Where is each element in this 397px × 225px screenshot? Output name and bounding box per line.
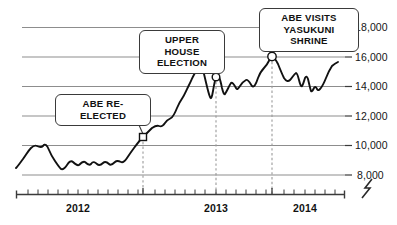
stock-index-line-chart: 18,000 16,000 14,000 12,000 10,000 8,000… bbox=[0, 0, 397, 225]
annotation-abe-re-elected: ABE RE-ELECTED bbox=[55, 94, 151, 126]
x-axis-minor-ticks bbox=[28, 188, 335, 195]
xtick-label-2013: 2013 bbox=[204, 203, 228, 214]
abe-visits-yasukuni-marker bbox=[268, 52, 276, 60]
xtick-label-2014: 2014 bbox=[293, 203, 317, 214]
annotation-abe-visits-yasukuni-shrine: ABE VISITS YASUKUNI SHRINE bbox=[259, 8, 359, 52]
ytick-label-18000: 18,000 bbox=[355, 22, 388, 33]
x-axis bbox=[16, 188, 345, 199]
axis-break-zigzag-icon bbox=[362, 179, 372, 198]
upper-house-election-marker bbox=[212, 73, 220, 81]
abe-re-elected-marker bbox=[140, 134, 147, 141]
xtick-label-2012: 2012 bbox=[66, 203, 90, 214]
ytick-label-12000: 12,000 bbox=[355, 111, 388, 122]
ytick-label-14000: 14,000 bbox=[355, 81, 388, 92]
ytick-label-8000: 8,000 bbox=[357, 170, 384, 181]
ytick-label-16000: 16,000 bbox=[355, 52, 388, 63]
ytick-label-10000: 10,000 bbox=[355, 140, 388, 151]
annotation-upper-house-election: UPPER HOUSE ELECTION bbox=[139, 30, 225, 74]
